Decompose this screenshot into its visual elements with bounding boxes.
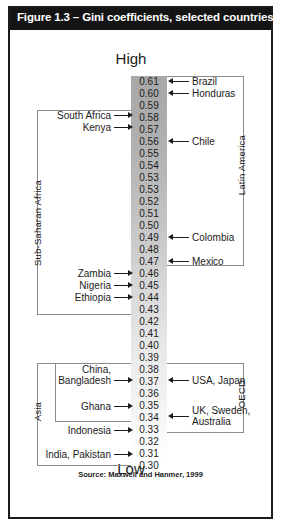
annotation-label-zambia: Zambia: [26, 268, 111, 279]
annotation-label-ethiopia: Ethiopia: [26, 292, 111, 303]
annotation-label-india-pakistan: India, Pakistan: [18, 449, 111, 460]
group-label-sub-saharan-africa: Sub-Saharan Africa: [32, 180, 43, 266]
scale-tick: 0.53: [131, 184, 167, 196]
scale-tick: 0.60: [131, 88, 167, 100]
scale-tick: 0.56: [131, 136, 167, 148]
scale-tick: 0.59: [131, 100, 167, 112]
annotation-arrow-india-pakistan: [114, 451, 133, 459]
annotation-label-ghana: Ghana: [26, 401, 111, 412]
annotation-arrow-nigeria: [114, 282, 133, 290]
annotation-arrow-honduras: [168, 90, 189, 98]
annotation-label-chile: Chile: [192, 136, 215, 147]
annotation-label-brazil: Brazil: [192, 76, 217, 87]
annotation-arrow-indonesia: [114, 427, 133, 435]
scale-tick: 0.34: [131, 412, 167, 424]
scale-tick: 0.53: [131, 172, 167, 184]
annotation-arrow-ethiopia: [114, 294, 133, 302]
annotation-label-colombia: Colombia: [192, 232, 234, 243]
scale-tick: 0.39: [131, 352, 167, 364]
scale-tick: 0.49: [131, 232, 167, 244]
scale-tick: 0.54: [131, 160, 167, 172]
chart-plot-area: High Low 0.61 0.60 0.59 0.58 0.57 0.56 0…: [10, 30, 271, 521]
annotation-arrow-south-africa: [114, 112, 133, 120]
scale-tick: 0.50: [131, 220, 167, 232]
annotation-arrow-kenya: [114, 124, 133, 132]
annotation-arrow-uk-sweden-australia: [168, 413, 189, 421]
source-caption: Source: Maxwell and Hanmer, 1999: [10, 470, 271, 479]
annotation-label-south-africa: South Africa: [26, 110, 111, 121]
scale-tick: 0.45: [131, 280, 167, 292]
scale-tick: 0.57: [131, 124, 167, 136]
annotation-label-australia: Australia: [192, 416, 231, 427]
annotation-arrow-usa-japan: [168, 377, 189, 385]
scale-tick: 0.46: [131, 268, 167, 280]
scale-tick: 0.48: [131, 244, 167, 256]
annotation-label-kenya: Kenya: [26, 122, 111, 133]
scale-high-label: High: [71, 50, 191, 67]
gini-scale-column: 0.61 0.60 0.59 0.58 0.57 0.56 0.55 0.54 …: [131, 76, 167, 460]
scale-tick: 0.36: [131, 388, 167, 400]
scale-tick: 0.47: [131, 256, 167, 268]
annotation-arrow-china-bangladesh: [114, 377, 133, 385]
figure-title-bar: Figure 1.3 – Gini coefficients, selected…: [10, 8, 271, 30]
scale-tick: 0.52: [131, 196, 167, 208]
scale-tick: 0.32: [131, 436, 167, 448]
annotation-arrow-zambia: [114, 270, 133, 278]
scale-tick: 0.58: [131, 112, 167, 124]
scale-tick: 0.35: [131, 400, 167, 412]
page-title: Figure 1.3 – Gini coefficients, selected…: [17, 11, 273, 23]
annotation-label-uk-sweden: UK, Sweden,: [192, 405, 250, 416]
annotation-label-mexico: Mexico: [192, 256, 224, 267]
scale-tick: 0.44: [131, 292, 167, 304]
scale-tick: 0.38: [131, 364, 167, 376]
annotation-label-bangladesh: Bangladesh: [26, 375, 111, 386]
annotation-label-honduras: Honduras: [192, 88, 235, 99]
annotation-label-china: China,: [26, 364, 111, 375]
scale-tick: 0.51: [131, 208, 167, 220]
scale-tick: 0.40: [131, 340, 167, 352]
annotation-arrow-colombia: [168, 234, 189, 242]
annotation-arrow-chile: [168, 138, 189, 146]
scale-tick: 0.43: [131, 304, 167, 316]
scale-tick: 0.42: [131, 316, 167, 328]
scale-tick: 0.41: [131, 328, 167, 340]
scale-tick: 0.37: [131, 376, 167, 388]
annotation-label-indonesia: Indonesia: [26, 425, 111, 436]
scale-tick: 0.31: [131, 448, 167, 460]
scale-tick: 0.33: [131, 424, 167, 436]
annotation-arrow-mexico: [168, 258, 189, 266]
scale-tick: 0.61: [131, 76, 167, 88]
annotation-label-usa-japan: USA, Japan: [192, 375, 245, 386]
annotation-arrow-ghana: [114, 403, 133, 411]
annotation-label-nigeria: Nigeria: [26, 280, 111, 291]
group-label-latin-america: Latin America: [236, 135, 247, 195]
annotation-arrow-brazil: [168, 78, 189, 86]
figure-panel: Figure 1.3 – Gini coefficients, selected…: [8, 6, 273, 519]
scale-tick: 0.55: [131, 148, 167, 160]
